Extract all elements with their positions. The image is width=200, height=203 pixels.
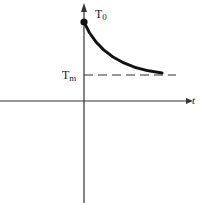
y-axis-arrow-icon xyxy=(81,3,87,12)
initial-point xyxy=(80,18,87,25)
initial-label: T0 xyxy=(95,7,107,22)
x-axis-label: t xyxy=(192,94,196,106)
asymptote-label: Tm xyxy=(62,68,76,83)
decay-diagram: T0 Tm t xyxy=(0,0,200,203)
decay-curve xyxy=(84,22,162,73)
